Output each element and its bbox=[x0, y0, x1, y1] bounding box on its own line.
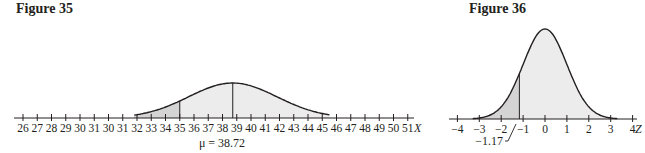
figure-35-tick-label: 46 bbox=[331, 122, 343, 134]
figure-36-tick-label: 0 bbox=[542, 123, 548, 135]
figure-35-chart: 2627282930313031323334353637383940414243… bbox=[14, 83, 422, 150]
figure-36-tick-label: 3 bbox=[608, 123, 614, 135]
figure-36-tick-label: 1 bbox=[564, 123, 570, 135]
figure-35-tick-label: 39 bbox=[231, 122, 243, 134]
figure-36-light-area bbox=[519, 29, 617, 119]
figure-35-light-area bbox=[180, 83, 330, 118]
figure-35-tick-label: 48 bbox=[359, 122, 371, 134]
figure-36-tick-label: −1 bbox=[517, 123, 529, 135]
figure-35-tick-label: 44 bbox=[302, 122, 314, 134]
figure-36-tick-label: 2 bbox=[586, 123, 592, 135]
figure-35-axis-variable: X bbox=[413, 121, 422, 135]
figure-35-mean-label: μ = 38.72 bbox=[199, 136, 245, 150]
figure-36-tick-label: −4 bbox=[451, 123, 463, 135]
figure-35-tick-label: 30 bbox=[103, 122, 115, 134]
figure-35-tick-label: 30 bbox=[74, 122, 86, 134]
figures-canvas: 2627282930313031323334353637383940414243… bbox=[0, 0, 645, 153]
figure-35-tick-label: 49 bbox=[374, 122, 386, 134]
figure-35-tick-label: 26 bbox=[17, 122, 29, 134]
figure-36-z-label: −1.17 bbox=[475, 134, 503, 148]
figure-35-tick-label: 43 bbox=[288, 122, 300, 134]
figure-35-tick-label: 33 bbox=[146, 122, 158, 134]
figure-36-dark-area bbox=[473, 75, 520, 119]
figure-35-tick-label: 28 bbox=[46, 122, 58, 134]
figure-36-chart: −4−3−2−101234 Z −1.17 bbox=[449, 29, 642, 148]
figure-35-tick-label: 47 bbox=[345, 122, 357, 134]
figure-35-tick-label: 50 bbox=[388, 122, 400, 134]
figure-35-tick-label: 32 bbox=[131, 122, 143, 134]
figure-35-tick-label: 31 bbox=[89, 122, 101, 134]
figure-35-tick-label: 42 bbox=[274, 122, 286, 134]
figure-35-tick-label: 29 bbox=[60, 122, 72, 134]
figure-35-tick-label: 38 bbox=[217, 122, 229, 134]
figure-36-axis-variable: Z bbox=[635, 122, 642, 136]
figure-35-tick-label: 37 bbox=[203, 122, 215, 134]
figure-35-tick-label: 45 bbox=[317, 122, 329, 134]
figure-35-tick-label: 41 bbox=[260, 122, 272, 134]
figure-35-tick-label: 35 bbox=[174, 122, 186, 134]
figure-35-tick-label: 27 bbox=[32, 122, 44, 134]
figure-35-tick-label: 40 bbox=[245, 122, 257, 134]
figure-35-tick-label: 31 bbox=[117, 122, 129, 134]
figure-35-tick-label: 34 bbox=[160, 122, 172, 134]
figure-35-tick-label: 51 bbox=[402, 122, 414, 134]
figure-35-tick-label: 36 bbox=[188, 122, 200, 134]
